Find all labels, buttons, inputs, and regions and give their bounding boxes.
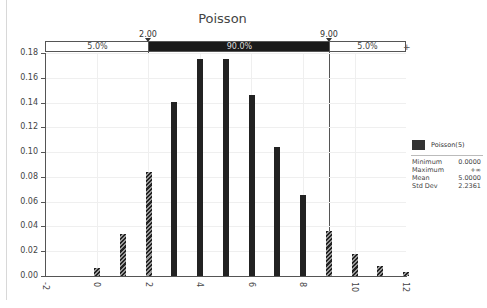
stat-label: Maximum bbox=[412, 166, 444, 174]
bar-x1[interactable] bbox=[120, 234, 126, 276]
y-tick-label: 0.18 bbox=[2, 48, 38, 57]
bar-x7[interactable] bbox=[274, 147, 280, 276]
bar-x8[interactable] bbox=[300, 195, 306, 276]
gridline bbox=[355, 53, 356, 276]
y-tick bbox=[41, 78, 45, 79]
range-end-marker-icon: + bbox=[403, 42, 411, 52]
stat-label: Std Dev bbox=[412, 182, 438, 190]
stat-value: 2.2361 bbox=[458, 182, 481, 190]
y-tick bbox=[41, 127, 45, 128]
y-tick-label: 0.08 bbox=[2, 172, 38, 181]
y-tick bbox=[41, 202, 45, 203]
y-tick bbox=[41, 226, 45, 227]
y-tick bbox=[41, 152, 45, 153]
x-tick-label: 6 bbox=[247, 282, 256, 287]
legend-series-name: Poisson(5) bbox=[431, 141, 465, 149]
bar-x5[interactable] bbox=[223, 59, 229, 276]
y-axis bbox=[45, 53, 46, 277]
gridline bbox=[97, 53, 98, 276]
chart-title: Poisson bbox=[0, 11, 487, 26]
bar-x10[interactable] bbox=[352, 254, 358, 276]
y-tick bbox=[41, 251, 45, 252]
x-tick-label: 4 bbox=[195, 282, 204, 287]
x-tick-label: 0 bbox=[92, 282, 101, 287]
x-tick-label: 10 bbox=[350, 282, 359, 292]
x-axis bbox=[45, 276, 407, 277]
y-tick bbox=[41, 103, 45, 104]
y-tick-label: 0.10 bbox=[2, 147, 38, 156]
stat-label: Mean bbox=[412, 174, 430, 182]
left-tail-segment: 5.0% bbox=[46, 42, 149, 51]
y-tick-label: 0.00 bbox=[2, 271, 38, 280]
probability-range-bar[interactable]: 5.0% 90.0% 5.0% bbox=[45, 41, 406, 52]
legend-divider bbox=[411, 155, 483, 156]
y-tick bbox=[41, 177, 45, 178]
x-tick-label: 2 bbox=[144, 282, 153, 287]
legend-swatch bbox=[412, 140, 425, 150]
y-tick-label: 0.06 bbox=[2, 197, 38, 206]
middle-segment: 90.0% bbox=[149, 42, 330, 51]
x-tick-label: 12 bbox=[401, 282, 410, 292]
y-tick-label: 0.04 bbox=[2, 221, 38, 230]
bar-x0[interactable] bbox=[94, 268, 100, 276]
y-tick-label: 0.16 bbox=[2, 73, 38, 82]
stat-value: +∞ bbox=[470, 166, 481, 174]
y-tick-label: 0.14 bbox=[2, 98, 38, 107]
bar-x6[interactable] bbox=[249, 95, 255, 276]
stat-label: Minimum bbox=[412, 158, 442, 166]
y-tick-label: 0.12 bbox=[2, 122, 38, 131]
x-tick-label: 8 bbox=[298, 282, 307, 287]
stat-value: 5.0000 bbox=[458, 174, 481, 182]
y-tick-label: 0.02 bbox=[2, 246, 38, 255]
stat-value: 0.0000 bbox=[458, 158, 481, 166]
y-tick bbox=[41, 53, 45, 54]
bar-x4[interactable] bbox=[197, 59, 203, 276]
bar-x2[interactable] bbox=[146, 172, 152, 276]
bar-x3[interactable] bbox=[171, 102, 177, 276]
gridline bbox=[45, 53, 406, 54]
bar-x11[interactable] bbox=[377, 266, 383, 276]
right-tail-segment: 5.0% bbox=[330, 42, 405, 51]
bar-x9[interactable] bbox=[326, 231, 332, 276]
x-tick-label: -2 bbox=[41, 282, 50, 290]
y-tick bbox=[41, 276, 45, 277]
